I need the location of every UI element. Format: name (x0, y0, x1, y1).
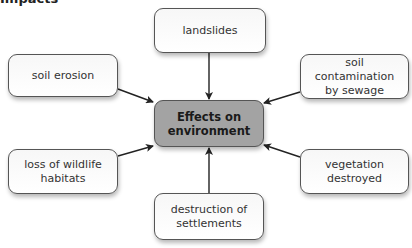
arrow-soil-erosion-to-center (118, 89, 153, 102)
node-label: landslides (182, 24, 237, 38)
node-label: soil erosion (32, 69, 94, 83)
node-label: soil contamination by sewage (307, 56, 402, 98)
node-label: vegetation destroyed (325, 158, 384, 186)
center-label: Effects on environment (168, 110, 251, 138)
arrow-vegetation-to-center (264, 145, 300, 157)
node-soil-erosion: soil erosion (8, 54, 118, 97)
node-loss-of-habitats: loss of wildlife habitats (8, 149, 118, 194)
node-center-effects-on-environment: Effects on environment (154, 100, 264, 147)
node-landslides: landslides (154, 8, 266, 53)
node-soil-contamination: soil contamination by sewage (300, 54, 409, 99)
node-label: loss of wildlife habitats (24, 158, 102, 186)
node-destruction-of-settlements: destruction of settlements (154, 193, 264, 240)
node-label: destruction of settlements (171, 203, 248, 231)
arrow-soil-contamination-to-center (264, 92, 300, 103)
node-vegetation-destroyed: vegetation destroyed (300, 149, 409, 194)
arrow-loss-of-habitats-to-center (118, 146, 153, 156)
